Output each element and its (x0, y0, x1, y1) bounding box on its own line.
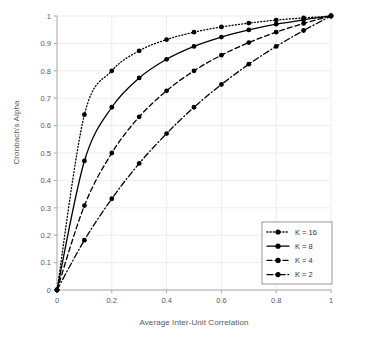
chart-legend: K = 16K = 8K = 4K = 2 (262, 222, 332, 284)
svg-text:0.7: 0.7 (41, 94, 51, 103)
x-axis-ticks: 00.20.40.60.81 (55, 290, 333, 305)
legend-label: K = 2 (295, 270, 313, 279)
svg-text:0: 0 (55, 296, 59, 305)
y-axis-ticks: 00.10.20.30.40.50.60.70.80.91 (41, 12, 57, 295)
svg-text:0.8: 0.8 (271, 296, 281, 305)
svg-text:0.4: 0.4 (161, 296, 171, 305)
svg-text:0.1: 0.1 (41, 258, 51, 267)
svg-text:0.2: 0.2 (41, 231, 51, 240)
svg-text:0.3: 0.3 (41, 204, 51, 213)
svg-text:0: 0 (47, 286, 51, 295)
svg-text:0.2: 0.2 (107, 296, 117, 305)
legend-marker-icon (275, 272, 280, 277)
svg-text:0.9: 0.9 (41, 39, 51, 48)
svg-text:0.6: 0.6 (41, 121, 51, 130)
legend-marker-icon (275, 229, 280, 234)
svg-text:0.8: 0.8 (41, 67, 51, 76)
legend-marker-icon (275, 258, 280, 263)
legend-label: K = 4 (295, 256, 313, 265)
svg-text:1: 1 (329, 296, 333, 305)
svg-text:1: 1 (47, 12, 51, 21)
legend-label: K = 8 (295, 242, 313, 251)
svg-text:0.6: 0.6 (216, 296, 226, 305)
chart-figure: Cronbach's Alpha Average Inter-Unit Corr… (0, 0, 372, 338)
legend-marker-icon (275, 244, 280, 249)
plot-area: 00.10.20.30.40.50.60.70.80.91 00.20.40.6… (0, 0, 372, 338)
svg-text:0.4: 0.4 (41, 176, 51, 185)
svg-text:0.5: 0.5 (41, 149, 51, 158)
legend-label: K = 16 (295, 228, 317, 237)
